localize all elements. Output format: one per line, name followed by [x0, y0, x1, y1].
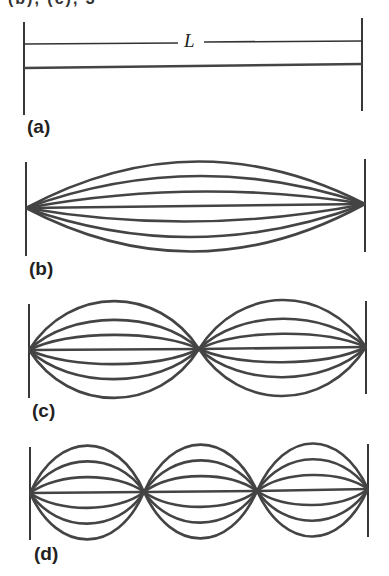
string-curve — [144, 491, 257, 538]
dimension-line-right — [204, 41, 362, 42]
panel-b-drawing — [26, 159, 365, 256]
string-curve — [144, 476, 257, 492]
panel-label-a: (a) — [27, 116, 50, 138]
string-curve — [29, 349, 199, 350]
string-curve — [30, 477, 144, 493]
string-curve — [26, 204, 365, 252]
panel-d-drawing — [30, 443, 368, 540]
string-curve — [199, 347, 366, 349]
panel-label-b: (b) — [29, 258, 53, 280]
panel-c-drawing — [29, 300, 366, 398]
string-curve — [199, 300, 366, 349]
figure-drawing — [0, 0, 389, 576]
string-curve — [257, 443, 368, 491]
string-curve — [257, 489, 368, 537]
string-curve — [29, 335, 199, 350]
string-curve — [199, 347, 366, 396]
string-curve — [144, 445, 257, 492]
length-label: L — [180, 30, 199, 52]
string-curve — [144, 491, 257, 507]
string-curve — [30, 492, 144, 493]
string-curve — [26, 204, 365, 208]
string-curve — [257, 489, 368, 491]
string-curve — [29, 301, 199, 350]
string-curve — [30, 446, 144, 493]
panel-label-c: (c) — [32, 400, 55, 422]
string-at-rest — [24, 64, 362, 68]
string-curve — [144, 491, 257, 492]
string-curve — [30, 492, 144, 508]
string-curve — [29, 349, 199, 398]
string-curve — [29, 349, 199, 364]
standing-waves-figure: (b), (c), 3 — [0, 0, 389, 576]
panel-label-d: (d) — [34, 543, 58, 565]
string-curve — [30, 492, 144, 539]
dimension-line-left — [24, 43, 178, 44]
